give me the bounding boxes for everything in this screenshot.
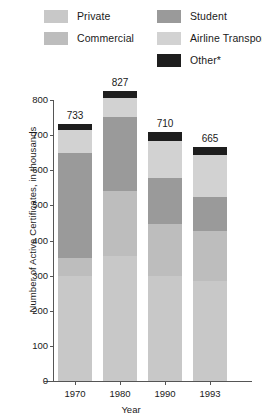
bar-1993[interactable] — [193, 147, 227, 381]
bar-segment-other — [148, 132, 182, 141]
x-axis-title: Year — [0, 404, 262, 415]
y-axis-tick-mark — [50, 241, 54, 242]
bar-segment-private — [148, 276, 182, 381]
y-axis-tick-mark — [50, 381, 54, 382]
bar-segment-airline-transport — [148, 141, 182, 179]
y-axis-tick-label: 600 — [22, 165, 48, 175]
bar-1990[interactable] — [148, 132, 182, 381]
x-axis-tick-mark — [210, 381, 211, 385]
y-axis-tick-label: 700 — [22, 130, 48, 140]
x-axis-tick-mark — [165, 381, 166, 385]
bar-segment-private — [58, 276, 92, 381]
y-axis-tick-mark — [50, 346, 54, 347]
x-axis-tick-label: 1993 — [187, 389, 233, 399]
plot-area: Number of Active Certificates, in thousa… — [0, 0, 262, 419]
bar-segment-commercial — [148, 224, 182, 276]
x-axis-tick-mark — [75, 381, 76, 385]
x-axis-tick-label: 1980 — [97, 389, 143, 399]
bar-segment-student — [103, 117, 137, 191]
y-axis-tick-mark — [50, 205, 54, 206]
bar-segment-other — [193, 147, 227, 155]
y-axis-tick-label: 0 — [22, 376, 48, 386]
x-axis-tick-label: 1970 — [52, 389, 98, 399]
y-axis-tick-mark — [50, 311, 54, 312]
bar-segment-other — [103, 91, 137, 98]
chart-figure: Private Commercial Student Airline Trans… — [0, 0, 262, 419]
bar-segment-airline-transport — [193, 155, 227, 196]
y-axis-tick-mark — [50, 276, 54, 277]
bar-total-label-1993: 665 — [187, 133, 233, 144]
bar-1980[interactable] — [103, 91, 137, 381]
bar-segment-airline-transport — [58, 130, 92, 154]
x-axis-tick-mark — [120, 381, 121, 385]
bar-segment-commercial — [193, 231, 227, 282]
bar-total-label-1970: 733 — [52, 110, 98, 121]
y-axis-tick-label: 100 — [22, 341, 48, 351]
y-axis-tick-label: 200 — [22, 306, 48, 316]
bar-segment-commercial — [58, 258, 92, 276]
bar-segment-private — [193, 281, 227, 381]
bar-total-label-1980: 827 — [97, 77, 143, 88]
bar-segment-commercial — [103, 191, 137, 255]
y-axis-tick-mark — [50, 170, 54, 171]
bar-segment-student — [193, 197, 227, 231]
y-axis-tick-mark — [50, 135, 54, 136]
y-axis-tick-label: 400 — [22, 236, 48, 246]
bar-segment-airline-transport — [103, 98, 137, 117]
bar-1970[interactable] — [58, 124, 92, 381]
bar-segment-student — [148, 178, 182, 223]
x-axis-tick-label: 1990 — [142, 389, 188, 399]
bar-segment-student — [58, 153, 92, 258]
y-axis-tick-label: 500 — [22, 200, 48, 210]
y-axis-tick-mark — [50, 100, 54, 101]
bar-segment-private — [103, 256, 137, 381]
y-axis-tick-label: 800 — [22, 95, 48, 105]
bar-total-label-1990: 710 — [142, 118, 188, 129]
y-axis-tick-label: 300 — [22, 271, 48, 281]
